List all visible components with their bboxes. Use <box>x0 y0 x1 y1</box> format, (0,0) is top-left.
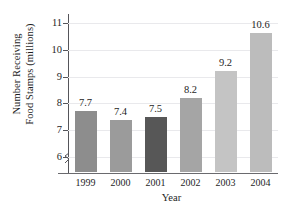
bar <box>180 98 202 172</box>
y-axis-tick-label: 9 <box>40 72 62 83</box>
x-axis-line <box>58 173 278 174</box>
bar <box>145 117 167 172</box>
y-axis-tick-label: 7 <box>40 125 62 136</box>
y-axis-label-line-2: Food Stamps (millions) <box>24 0 37 154</box>
y-axis-tick <box>63 77 68 78</box>
y-axis-tick <box>63 50 68 51</box>
bar <box>110 120 132 172</box>
x-axis-label-text: Year <box>114 192 181 203</box>
y-axis-tick-label: 11 <box>40 18 62 29</box>
x-axis-tick-label: 1999 <box>66 177 106 188</box>
bar-chart-figure: Number Receiving Food Stamps (millions) … <box>0 0 295 214</box>
y-axis-tick <box>63 130 68 131</box>
gridline <box>68 77 278 78</box>
gridline <box>68 50 278 51</box>
bar-value-label: 7.5 <box>136 104 176 115</box>
y-axis-label-line-1: Number Receiving <box>11 0 24 154</box>
gridline <box>68 157 278 158</box>
x-axis-tick-label: 2002 <box>171 177 211 188</box>
x-axis-label: Year <box>0 192 295 203</box>
x-axis-tick-label: 2004 <box>241 177 281 188</box>
x-axis-tick-label: 2000 <box>101 177 141 188</box>
gridline <box>68 130 278 131</box>
y-axis-tick <box>63 157 68 158</box>
bar-value-label: 10.6 <box>241 20 281 31</box>
bar <box>250 33 272 172</box>
bar-value-label: 9.2 <box>206 58 246 69</box>
y-axis-tick-label: 6 <box>40 152 62 163</box>
bar-value-label: 7.4 <box>101 107 141 118</box>
bar-value-label: 7.7 <box>66 98 106 109</box>
y-axis-tick <box>63 23 68 24</box>
bar <box>215 71 237 172</box>
bar <box>75 111 97 172</box>
x-axis-tick-label: 2003 <box>206 177 246 188</box>
y-axis-tick-label: 8 <box>40 98 62 109</box>
bar-value-label: 8.2 <box>171 85 211 96</box>
x-axis-tick-label: 2001 <box>136 177 176 188</box>
y-axis-tick-label: 10 <box>40 45 62 56</box>
